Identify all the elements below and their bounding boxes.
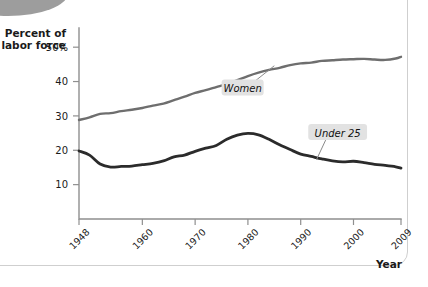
screenshot-root: 1020304050% 1948196019701980199020002009…: [0, 0, 428, 287]
leader-line-under-25: [317, 140, 326, 159]
series-callouts: WomenUnder 25: [222, 66, 367, 160]
x-tick-label-1990: 1990: [289, 226, 314, 251]
x-tick-label-2009: 2009: [389, 226, 414, 251]
series-label-under-25: Under 25: [315, 128, 361, 139]
y-axis-title-line2: labor force: [1, 39, 66, 51]
x-tick-label-1980: 1980: [236, 226, 261, 251]
x-tick-labels: 1948196019701980199020002009: [67, 226, 414, 251]
series-label-women: Women: [224, 83, 262, 94]
x-tick-label-1970: 1970: [183, 226, 208, 251]
x-tick-label-2000: 2000: [341, 226, 366, 251]
y-tick-label-20: 20: [55, 145, 68, 156]
x-tick-label-1960: 1960: [130, 226, 155, 251]
y-tick-label-30: 30: [55, 111, 68, 122]
y-tick-labels: 1020304050%: [46, 42, 68, 190]
y-tick-label-40: 40: [55, 76, 68, 87]
line-chart: 1020304050% 1948196019701980199020002009…: [0, 0, 428, 287]
y-tick-label-10: 10: [55, 179, 68, 190]
data-series: [79, 57, 401, 168]
axis-lines: [79, 28, 401, 219]
x-axis-title: Year: [375, 258, 403, 270]
chart-svg: 1020304050% 1948196019701980199020002009…: [0, 0, 428, 287]
x-tick-label-1948: 1948: [67, 226, 92, 251]
y-axis-title-line1: Percent of: [5, 27, 67, 39]
